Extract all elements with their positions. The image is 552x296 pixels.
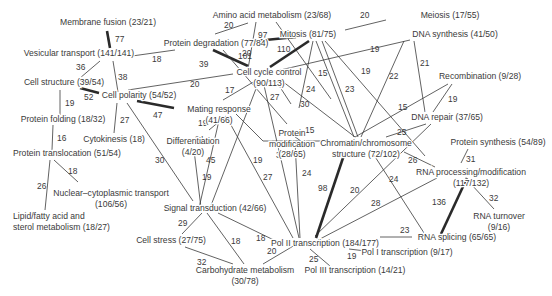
edge-line xyxy=(194,150,201,208)
node-label-line: RNA turnover xyxy=(473,211,525,221)
edge-weight-label: 15 xyxy=(398,102,408,112)
edge-weight-label: 101 xyxy=(238,51,252,61)
node-protein-synthesis: Protein synthesis (54/89) xyxy=(450,137,545,147)
node-chromatin: Chromatin/chromosomestructure (72/102) xyxy=(320,138,412,159)
edge-line xyxy=(128,74,233,90)
node-cell-polarity: Cell polarity (54/52) xyxy=(102,90,177,100)
edge-weight-label: 19 xyxy=(65,98,75,108)
edge-line xyxy=(345,20,386,30)
edge-weight-label: 19 xyxy=(347,251,357,261)
edge-weight-label: 27 xyxy=(270,92,280,102)
edge-weight-label: 27 xyxy=(263,172,273,182)
node-label-line: Cell polarity (54/52) xyxy=(102,90,177,100)
node-lipid: Lipid/fatty acid andsterol metabolism (1… xyxy=(13,211,110,232)
edge-weight-label: 20 xyxy=(350,185,360,195)
edge-line xyxy=(137,101,174,108)
edge-weight-label: 19 xyxy=(202,172,212,182)
edge-line xyxy=(318,178,437,240)
edge-weight-label: 36 xyxy=(76,62,86,72)
edge-weight-label: 24 xyxy=(306,84,316,94)
node-dna-repair: DNA repair (37/65) xyxy=(411,112,483,122)
node-label-line: (28/65) xyxy=(278,149,305,159)
edge-weight-label: 20 xyxy=(190,79,200,89)
edge-weight-label: 39 xyxy=(199,59,209,69)
node-rna-processing: RNA processing/modification(117/132) xyxy=(416,167,526,188)
node-label-line: Cell stress (27/75) xyxy=(136,235,206,245)
node-label-line: Differentiation xyxy=(167,136,220,146)
edge-weight-label: 32 xyxy=(489,193,499,203)
node-label-line: Amino acid metabolism (23/68) xyxy=(213,10,332,20)
node-label-line: Protein translocation (51/54) xyxy=(13,148,121,158)
edge-weight-label: 26 xyxy=(37,181,47,191)
node-label-line: (9/16) xyxy=(488,222,511,232)
edge-line xyxy=(316,152,345,238)
node-protein-translocation: Protein translocation (51/54) xyxy=(13,148,121,158)
node-label-line: Mating response xyxy=(187,104,251,114)
node-label-line: Pol III transcription (14/21) xyxy=(305,265,406,275)
node-label-line: Lipid/fatty acid and xyxy=(13,211,85,221)
edge-weight-label: 30 xyxy=(300,99,310,109)
node-rna-splicing: RNA splicing (65/65) xyxy=(418,232,496,242)
node-label-line: (30/78) xyxy=(231,276,258,286)
edge-line xyxy=(414,41,425,112)
edge-weight-label: 19 xyxy=(448,94,458,104)
node-amino-acid: Amino acid metabolism (23/68) xyxy=(213,10,332,20)
node-label-line: Vesicular transport (141/141) xyxy=(24,48,134,58)
node-pol3: Pol III transcription (14/21) xyxy=(305,265,406,275)
node-label-line: (117/132) xyxy=(453,178,489,188)
edge-weight-label: 47 xyxy=(153,110,163,120)
network-diagram: 7718363852201927473016182620209710111020… xyxy=(0,0,552,296)
node-label-line: Protein degradation (77/84) xyxy=(164,38,269,48)
edge-line xyxy=(114,103,117,133)
node-label-line: Pol I transcription (9/17) xyxy=(361,247,452,257)
edge-line xyxy=(236,114,263,141)
edge-line xyxy=(185,247,233,264)
node-carbohydrate: Carbohydrate metabolism(30/78) xyxy=(196,265,294,286)
node-label-line: RNA processing/modification xyxy=(416,167,526,177)
node-signal-transduction: Signal transduction (42/66) xyxy=(164,203,267,213)
node-label-line: structure (72/102) xyxy=(332,149,400,159)
edge-weight-label: 17 xyxy=(225,85,235,95)
node-mating-response: Mating response(41/66) xyxy=(187,104,251,125)
node-pol1: Pol I transcription (9/17) xyxy=(361,247,452,257)
node-mitosis: Mitosis (81/75) xyxy=(280,29,336,39)
node-label-line: Cell cycle control xyxy=(237,67,302,77)
edge-weight-label: 15 xyxy=(318,68,328,78)
node-protein-degradation: Protein degradation (77/84) xyxy=(164,38,269,48)
edge-weight-label: 98 xyxy=(318,183,328,193)
edge-weight-label: 19 xyxy=(361,66,371,76)
edge-weight-label: 18 xyxy=(152,54,162,64)
edge-weight-label: 18 xyxy=(256,233,266,243)
node-recombination: Recombination (9/28) xyxy=(439,71,521,81)
edge-weight-label: 23 xyxy=(345,84,355,94)
edge-weight-label: 20 xyxy=(360,10,370,20)
node-label-line: DNA synthesis (41/50) xyxy=(412,29,498,39)
node-label-line: (106/56) xyxy=(95,199,127,209)
edge-weight-label: 29 xyxy=(178,218,188,228)
edge-weight-label: 110 xyxy=(277,44,291,54)
node-label-line: DNA repair (37/65) xyxy=(411,112,483,122)
node-label-line: Signal transduction (42/66) xyxy=(164,203,267,213)
edge-weight-label: 22 xyxy=(389,71,399,81)
edge-weight-label: 21 xyxy=(420,58,430,68)
edge-line xyxy=(52,125,53,150)
node-membrane-fusion: Membrane fusion (23/21) xyxy=(60,17,156,27)
edge-weight-label: 77 xyxy=(115,34,125,44)
node-label-line: Meiosis (17/55) xyxy=(421,10,480,20)
node-label-line: Chromatin/chromosome xyxy=(320,138,412,148)
edge-weight-label: 24 xyxy=(389,174,399,184)
edge-weight-label: 23 xyxy=(400,225,410,235)
edge-weight-label: 27 xyxy=(120,115,130,125)
node-vesicular-transport: Vesicular transport (141/141) xyxy=(24,48,134,58)
edge-weight-label: 16 xyxy=(57,133,67,143)
edge-weight-label: 15 xyxy=(305,125,315,135)
node-nuclear-cytoplasmic: Nuclear–cytoplasmic transport(106/56) xyxy=(53,188,169,209)
edge-weight-label: 18 xyxy=(231,236,241,246)
node-label-line: Mitosis (81/75) xyxy=(280,29,336,39)
node-cytokinesis: Cytokinesis (18) xyxy=(83,134,145,144)
node-label-line: (41/66) xyxy=(205,115,232,125)
node-label-line: Recombination (9/28) xyxy=(439,71,521,81)
node-label-line: Protein synthesis (54/89) xyxy=(450,137,545,147)
node-label-line: Protein folding (18/32) xyxy=(21,114,106,124)
node-protein-folding: Protein folding (18/32) xyxy=(21,114,106,124)
